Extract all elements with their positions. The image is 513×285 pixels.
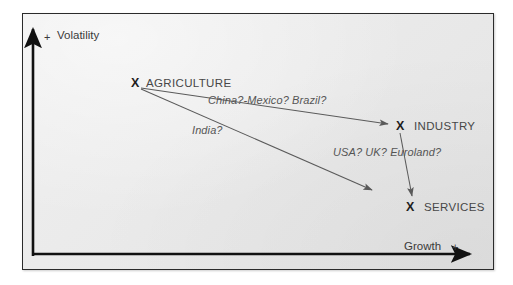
services-marker-icon: X	[406, 201, 414, 214]
y-axis-plus-sign: +	[44, 32, 50, 43]
agriculture-label: AGRICULTURE	[146, 78, 231, 90]
x-axis-label: Growth	[404, 241, 441, 253]
edge-label-china-mexico-brazil: China?-Mexico? Brazil?	[208, 95, 326, 106]
services-label: SERVICES	[424, 202, 485, 214]
x-axis-plus-sign: +	[452, 242, 458, 253]
industry-marker-icon: X	[396, 120, 404, 133]
edge-label-usa-uk-euroland: USA? UK? Euroland?	[333, 147, 441, 158]
edge-industry-to-services	[400, 133, 412, 196]
industry-label: INDUSTRY	[414, 121, 475, 133]
agriculture-marker-icon: X	[131, 77, 139, 90]
edge-label-india: India?	[192, 125, 223, 136]
screenshot-root: + Volatility Growth + X AGRICULTURE X IN…	[0, 0, 513, 285]
y-axis-label: Volatility	[57, 30, 99, 42]
